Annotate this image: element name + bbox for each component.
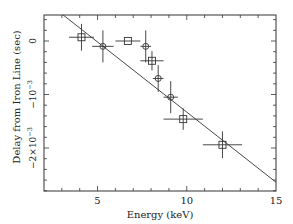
chart-container: 510150−10−3−2×10−3Energy (keV)Delay from… [0, 0, 293, 224]
x-tick-label: 5 [94, 195, 100, 206]
x-tick-label: 10 [180, 195, 193, 206]
plot-frame [44, 15, 276, 191]
x-axis-title: Energy (keV) [127, 209, 194, 220]
y-tick-label: −10−3 [26, 80, 38, 109]
x-tick-label: 15 [270, 195, 283, 206]
scatter-plot: 510150−10−3−2×10−3Energy (keV)Delay from… [0, 0, 293, 224]
fit-line [63, 15, 276, 182]
y-axis-title: Delay from Iron Line (sec) [11, 30, 22, 163]
y-tick-label: −2×10−3 [26, 127, 38, 169]
y-tick-label: 0 [28, 38, 38, 44]
